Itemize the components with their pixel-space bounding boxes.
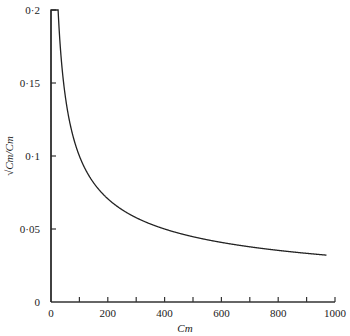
y-tick-label: 0 xyxy=(35,296,41,308)
y-tick-labels: 00·050·10·150·2 xyxy=(20,4,41,308)
x-tick-label: 800 xyxy=(270,307,287,319)
y-tick-label: 0·05 xyxy=(20,223,41,235)
chart: 02004006008001000 00·050·10·150·2 Cm √Cm… xyxy=(0,0,350,336)
x-tick-label: 0 xyxy=(48,307,54,319)
series-line xyxy=(51,10,326,302)
x-ticks xyxy=(79,297,335,302)
y-axis-title: √Cm/Cm xyxy=(3,136,15,176)
x-tick-label: 200 xyxy=(100,307,117,319)
y-ticks xyxy=(51,10,56,229)
x-tick-label: 600 xyxy=(213,307,230,319)
x-tick-labels: 02004006008001000 xyxy=(48,307,346,319)
y-tick-label: 0·1 xyxy=(25,150,40,162)
x-axis-title: Cm xyxy=(177,322,192,334)
y-tick-label: 0·2 xyxy=(25,4,40,16)
axes xyxy=(51,10,335,302)
x-tick-label: 1000 xyxy=(324,307,347,319)
x-tick-label: 400 xyxy=(156,307,173,319)
y-tick-label: 0·15 xyxy=(20,77,41,89)
